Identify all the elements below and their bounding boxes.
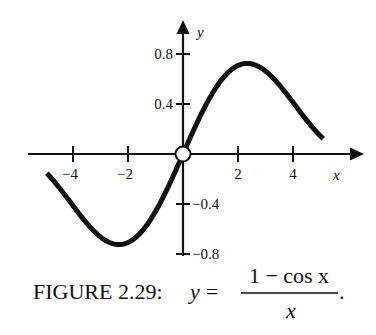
x-axis-label: x <box>332 167 340 183</box>
y-axis-label: y <box>195 24 204 40</box>
caption-prefix: FIGURE 2.29: <box>33 279 163 304</box>
function-plot: −4−224 x 0.80.4−0.4−0.8 y FIGURE 2.29: y… <box>0 0 376 335</box>
y-tick-label: 0.8 <box>154 46 173 62</box>
y-tick-label: 0.4 <box>154 96 173 112</box>
x-tick-label: 4 <box>289 166 297 182</box>
caption-lhs: y <box>188 279 200 304</box>
x-axis-arrow-icon <box>350 148 364 161</box>
x-axis: −4−224 x <box>28 146 364 183</box>
y-axis-arrow-icon <box>177 20 190 34</box>
x-tick-label: −4 <box>62 166 78 182</box>
x-tick-label: −2 <box>117 166 133 182</box>
y-tick-label: −0.4 <box>192 196 220 212</box>
y-tick-label: −0.8 <box>192 246 219 262</box>
caption-denominator: x <box>285 298 296 323</box>
x-tick-label: 2 <box>234 166 242 182</box>
open-circle-discontinuity <box>176 147 191 162</box>
caption-numerator: 1 − cos x <box>249 263 329 288</box>
caption-equals: = <box>206 279 218 304</box>
caption-suffix: . <box>339 279 345 304</box>
figure-caption: FIGURE 2.29: y = 1 − cos x x . <box>33 263 345 323</box>
